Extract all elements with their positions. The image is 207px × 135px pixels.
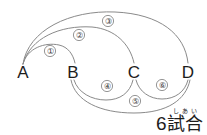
edge-badge-2-text: ② — [76, 31, 83, 40]
edge-badge-4: ④ — [101, 80, 112, 91]
edge-badge-3-text: ③ — [105, 17, 112, 26]
caption-count: 6 — [156, 114, 166, 133]
edge-badge-5: ⑤ — [129, 95, 140, 106]
edge-badge-1: ① — [44, 45, 55, 56]
match-count-caption: 6 しあい 試合 — [156, 108, 203, 133]
edge-badge-4-text: ④ — [104, 82, 111, 91]
caption-row: 6 しあい 試合 — [156, 108, 203, 133]
edge-badge-5-text: ⑤ — [132, 97, 139, 106]
diagram-page: A B C D ① ② ③ ④ ⑤ ⑥ 6 — [0, 0, 207, 135]
edge-badge-6: ⑥ — [156, 79, 167, 90]
ruby-group: しあい 試合 — [167, 108, 203, 133]
node-label-d: D — [182, 63, 194, 82]
edge-badge-6-text: ⑥ — [159, 81, 166, 90]
node-label-c: C — [128, 63, 140, 82]
node-label-b: B — [67, 63, 78, 82]
caption-word: 試合 — [167, 115, 203, 133]
node-label-a: A — [17, 63, 29, 82]
edge-badge-2: ② — [73, 29, 84, 40]
edge-badge-1-text: ① — [47, 47, 54, 56]
edge-badge-3: ③ — [102, 15, 113, 26]
